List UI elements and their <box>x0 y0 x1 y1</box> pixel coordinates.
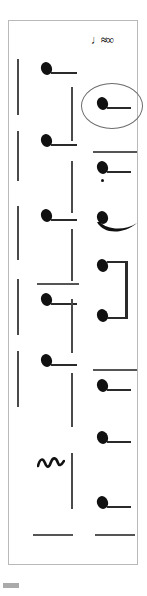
tempo-mark: ♩≈∞ <box>91 32 113 46</box>
ledger-line-left-4 <box>37 283 79 285</box>
stem-right-6 <box>107 441 131 443</box>
stem-left-4 <box>51 303 77 305</box>
barline-left-4 <box>17 279 19 335</box>
mordent-ornament-icon <box>37 456 65 474</box>
beam-stem-right-4 <box>125 261 128 319</box>
stem-left-5 <box>51 364 77 366</box>
staccato-dot-right-2 <box>101 179 104 182</box>
notehead-right-4a <box>95 257 110 273</box>
notehead-right-4b <box>95 307 110 323</box>
figure-frame: ♩≈∞ <box>8 20 138 565</box>
barline-center-2 <box>71 161 73 213</box>
ledger-line-right-5 <box>93 369 137 371</box>
barline-left-1 <box>17 59 19 115</box>
figure-title: Music notation excerpt <box>0 0 1 1</box>
barline-center-4 <box>71 299 73 353</box>
rest-line-right <box>95 534 135 536</box>
barline-left-5 <box>17 351 19 407</box>
beam-top-right-4 <box>107 261 127 263</box>
notehead-left-4 <box>39 291 54 307</box>
stem-left-2 <box>51 144 77 146</box>
barline-left-2 <box>17 131 19 181</box>
barline-center-6 <box>71 453 73 509</box>
stem-left-1 <box>51 72 77 74</box>
barline-center-1 <box>71 87 73 141</box>
slur-icon-right-3 <box>95 219 139 240</box>
beam-bottom-right-4 <box>107 317 127 319</box>
stem-left-3 <box>51 219 77 221</box>
notehead-left-5 <box>39 352 54 368</box>
ledger-line-right-2 <box>93 151 137 153</box>
notehead-right-6 <box>95 429 110 445</box>
notehead-right-7 <box>95 494 110 510</box>
stem-right-7 <box>107 506 131 508</box>
barline-left-3 <box>17 206 19 260</box>
stem-right-2 <box>107 171 131 173</box>
barline-center-5 <box>71 373 73 427</box>
ellipse-highlight <box>81 83 143 129</box>
notehead-left-1 <box>39 60 54 76</box>
notehead-left-3 <box>39 207 54 223</box>
rest-line-left <box>33 534 73 536</box>
stem-right-5 <box>107 389 131 391</box>
notehead-right-5 <box>95 377 110 393</box>
barline-center-3 <box>71 229 73 281</box>
caption-fragment <box>3 583 19 588</box>
stem-right-1 <box>107 107 131 109</box>
notehead-right-2 <box>95 159 110 175</box>
notehead-left-2 <box>39 132 54 148</box>
